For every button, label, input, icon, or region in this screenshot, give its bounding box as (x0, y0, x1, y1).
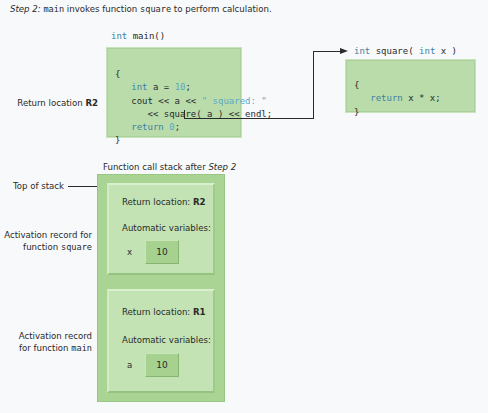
stack-title: Function call stack after Step 2 (103, 162, 236, 172)
square-code-close-brace: } (354, 107, 359, 117)
main-signature: int main() (111, 31, 165, 41)
ar-main-label-line2: for function main (0, 342, 92, 354)
main-code-l1: a = (148, 82, 175, 92)
square-signature-param: x ) (435, 46, 457, 56)
ar-square-label-fn: square (61, 242, 92, 252)
main-code-l4-end: ; (175, 122, 180, 132)
caption-step: Step 2: (10, 4, 41, 14)
square-code: { return x * x; } (354, 66, 441, 119)
record-square-var-value: 10 (145, 240, 179, 264)
square-code-box: { return x * x; } (346, 60, 475, 112)
return-location-id: R2 (85, 98, 98, 108)
call-connector-vertical (313, 51, 314, 119)
record-main-var-value: 10 (145, 353, 179, 377)
ar-main-label-fn: main (71, 343, 92, 353)
main-signature-keyword: int (111, 31, 127, 41)
main-code-l2: cout << a << (131, 96, 201, 106)
top-of-stack-line (68, 186, 98, 187)
ar-square-label: Activation record for function square (0, 229, 92, 253)
call-connector-top (313, 51, 343, 52)
main-code-l2-string: " squared: " (202, 96, 267, 106)
square-signature-param-type: int (419, 46, 435, 56)
main-code-open-brace: { (115, 69, 120, 79)
ar-main-label: Activation record for function main (0, 330, 92, 354)
caption-text2: to perform calculation. (174, 4, 272, 14)
ar-square-label-line1: Activation record for (0, 229, 92, 241)
square-code-open-brace: { (354, 80, 359, 90)
ar-main-label-line1: Activation record (0, 330, 92, 342)
main-code-l1-keyword: int (131, 82, 147, 92)
main-code-box: { int a = 10; cout << a << " squared: " … (107, 48, 241, 137)
caption-fn-main: main (43, 4, 64, 14)
record-main-auto-label: Automatic variables: (122, 335, 211, 345)
record-main-return: Return location: R1 (122, 307, 206, 317)
arrow-head-icon (340, 48, 348, 54)
record-main-return-label: Return location: (122, 307, 190, 317)
caption-text1: invokes function (67, 4, 137, 14)
return-location-text: Return location (17, 98, 82, 108)
record-main-return-id: R1 (193, 307, 206, 317)
record-square-return-label: Return location: (122, 197, 190, 207)
record-square-return-id: R2 (193, 197, 206, 207)
square-signature: int square( int x ) (354, 46, 457, 56)
record-square-return: Return location: R2 (122, 197, 206, 207)
stack-title-step: Step 2 (208, 162, 236, 172)
activation-record-main: Return location: R1 Automatic variables:… (107, 289, 215, 393)
stack-title-text: Function call stack after (103, 162, 206, 172)
diagram-caption: Step 2: main invokes function square to … (10, 4, 272, 14)
ar-square-label-function-word: function (23, 242, 58, 252)
square-signature-keyword: int (354, 46, 370, 56)
ar-square-label-line2: function square (0, 241, 92, 253)
record-square-auto-label: Automatic variables: (122, 223, 211, 233)
top-of-stack-label: Top of stack (0, 180, 64, 192)
ar-main-label-function-word: for function (19, 343, 69, 353)
activation-record-square: Return location: R2 Automatic variables:… (107, 183, 215, 275)
main-code: { int a = 10; cout << a << " squared: " … (115, 55, 272, 147)
call-connector-horizontal (184, 118, 314, 119)
record-main-var-name: a (127, 360, 132, 370)
main-signature-name: main() (133, 31, 166, 41)
square-code-l1-keyword: return (370, 93, 403, 103)
square-code-l1: x * x; (403, 93, 441, 103)
call-stack: Return location: R2 Automatic variables:… (97, 174, 225, 402)
caption-fn-square: square (140, 4, 171, 14)
main-code-l4-keyword: return (131, 122, 164, 132)
main-code-close-brace: } (115, 135, 120, 145)
record-square-var-name: x (127, 247, 132, 257)
main-code-l1-number: 10 (175, 82, 186, 92)
main-code-l1-end: ; (185, 82, 190, 92)
square-signature-name: square( (370, 46, 419, 56)
return-location-label: Return location R2 (0, 97, 98, 109)
